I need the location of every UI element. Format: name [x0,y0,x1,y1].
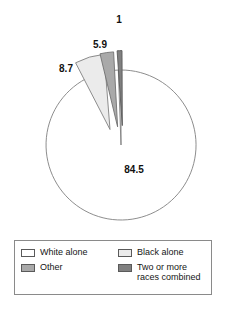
legend-swatch-black-alone [118,249,132,257]
legend-label-white-alone: White alone [40,247,88,258]
legend-item-white-alone[interactable]: White alone [21,247,118,258]
legend-label-other: Other [40,262,63,273]
legend-item-black-alone[interactable]: Black alone [118,247,219,258]
pie-label-white-alone: 84.5 [124,164,144,175]
chart-legend: White alone Black alone Other Two or mor… [14,240,212,295]
pie-label-black-alone: 8.7 [59,63,73,74]
legend-swatch-white-alone [21,249,35,257]
legend-label-two-or-more-races: Two or more races combined [137,262,201,283]
legend-item-two-or-more-races[interactable]: Two or more races combined [118,262,219,283]
pie-chart-svg: 84.5 8.7 5.9 1 [0,0,226,232]
pie-chart-plot-area: 84.5 8.7 5.9 1 [0,0,226,232]
pie-label-other: 5.9 [93,39,107,50]
legend-grid: White alone Black alone Other Two or mor… [15,241,211,294]
pie-label-two-or-more-races: 1 [116,14,122,25]
pie-chart-figure: 84.5 8.7 5.9 1 White alone Black alone O… [0,0,226,312]
legend-label-black-alone: Black alone [137,247,184,258]
legend-swatch-other [21,264,35,272]
legend-item-other[interactable]: Other [21,262,118,283]
legend-swatch-two-or-more-races [118,264,132,272]
